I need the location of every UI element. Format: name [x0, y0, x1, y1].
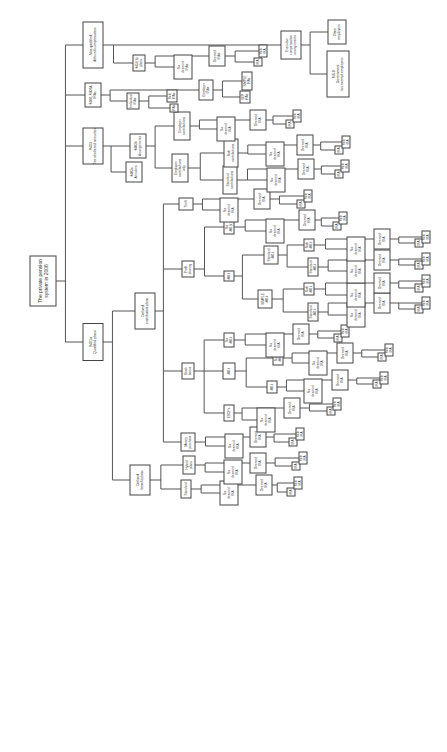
node-label-line: IRA: [277, 150, 281, 156]
node-other: Otheremployers: [328, 20, 346, 44]
node-db-hyb-r: RothIRA: [299, 452, 307, 464]
node-sb-esop-nd: NodeemedIRA: [257, 408, 275, 432]
node-label-line: IRA: [345, 328, 349, 333]
node-label-line: IRA: [268, 416, 272, 422]
node-label-line: IRA: [389, 347, 393, 352]
node-label-line: Standard: [184, 482, 188, 495]
node-label: RothIRA: [333, 401, 340, 408]
node-label: IRA: [336, 335, 340, 340]
node-label-line: IRA: [426, 234, 430, 239]
node-label-line: 401k: [313, 263, 317, 270]
node-ps-t2-nd: NodeemedIRA: [347, 237, 365, 261]
node-label-line: IRA: [417, 262, 421, 267]
node-label-line: IRA: [277, 227, 281, 233]
node-label-line: IRA: [231, 489, 235, 495]
diagram-nodes: The private pensionsystem in 2006§401aQu…: [30, 20, 430, 505]
node-label: IRA: [299, 201, 303, 206]
node-label-line: IRA: [303, 455, 307, 460]
node-ps-no-nd: NodeemedIRA: [266, 219, 284, 243]
node-label-line: contribution plans: [145, 297, 149, 324]
node-label-line: IRA: [235, 468, 239, 474]
node-std-c-d: DeemedIRA: [298, 159, 314, 179]
node-label-line: IRA: [278, 176, 282, 182]
node-ps-s1: Standard401k: [308, 303, 318, 321]
node-label-line: IRA: [264, 481, 268, 487]
node-label-line: plans: [139, 59, 143, 67]
node-std-c: Standardcontributions: [223, 166, 237, 194]
node-sb-no: No401k: [224, 333, 234, 347]
node-db-std-d: DeemedIRA: [256, 475, 272, 495]
node-label-line: IRA: [294, 463, 298, 468]
node-label: IRA: [417, 285, 421, 290]
node-a403a: §403aAnnuities: [126, 162, 142, 182]
node-label: 401k: [227, 272, 231, 279]
node-label: RothIRA: [259, 48, 266, 55]
node-label: Moneypurchase: [184, 435, 192, 448]
node-label: RothIRA: [299, 455, 306, 462]
node-sb-401k-a: 401k: [267, 381, 277, 393]
node-eeonly: Employeecontributionsonly: [172, 154, 188, 182]
node-sb-401k: 401k: [223, 363, 235, 379]
node-dbp: Definedbenefit plans: [130, 465, 150, 495]
node-label-line: IRAs: [185, 63, 189, 70]
node-label-line: 401k: [271, 251, 275, 258]
node-label-line: IRA: [345, 349, 349, 355]
node-db-hyb: Hybridplans: [183, 456, 195, 474]
node-ps-no-r: RothIRA: [339, 212, 347, 224]
node-label-line: contributions: [230, 171, 234, 189]
node-label-line: IRA: [384, 375, 388, 380]
node-label: Profit-sharing: [184, 264, 192, 275]
node-label-line: IRAs: [133, 97, 137, 104]
node-label: RothIRA: [342, 139, 349, 146]
node-label-line: IRAs: [245, 93, 249, 100]
node-label-line: IRA: [256, 59, 260, 64]
node-nqdc: Non-qualifieddeferred compensation: [83, 22, 103, 68]
node-label-line: plans: [189, 461, 193, 469]
diagram-canvas: The private pensionsystem in 2006§401aQu…: [0, 0, 447, 752]
node-db-std: Standard: [181, 480, 191, 498]
node-label: Stockbonus: [184, 366, 192, 375]
node-label-line: IRA: [315, 387, 319, 393]
node-label-line: IRA: [382, 256, 386, 262]
node-std-c-nd: NodeemedIRA: [267, 168, 285, 192]
node-sb-esop: ESOPs: [224, 405, 234, 421]
node-label-line: IRA: [380, 354, 384, 359]
node-s457b-nd: NodeemedIRAs: [174, 55, 192, 79]
node-label: RothIRA: [422, 234, 429, 241]
node-label-line: IRA: [320, 359, 324, 365]
node-label: IRA: [288, 121, 292, 126]
node-label-line: 401k: [270, 383, 274, 390]
node-label-line: Thrift: [184, 200, 188, 207]
node-label-line: 401k: [227, 367, 231, 374]
node-label-line: IRA: [382, 299, 386, 305]
node-label-line: IRAs: [172, 104, 176, 111]
node-roth-c-d: DeemedIRA: [297, 135, 313, 155]
node-er-c-nd: NodeemedIRA: [217, 117, 235, 141]
node-label-line: IRA: [277, 341, 281, 347]
node-ps-t2-d: DeemedIRA: [374, 229, 390, 249]
node-sb-no-d: DeemedIRA: [293, 324, 309, 344]
node-s403: §403Tax sheltered annuities: [83, 127, 103, 164]
node-label-line: IRA: [289, 489, 293, 494]
node-roth-c: Rothcontributions: [224, 139, 238, 167]
node-ps-t1-d: DeemedIRA: [374, 250, 390, 270]
node-label-line: benefit plans: [140, 470, 144, 490]
node-label-line: IRA: [358, 245, 362, 251]
node-label-line: IRA: [258, 116, 262, 122]
node-label-line: IRA: [335, 223, 339, 228]
node-db-hyb-d: DeemedIRA: [250, 453, 266, 473]
node-ps-t2: Roth401k: [304, 239, 314, 251]
node-label-line: IRA: [298, 480, 302, 485]
node-label: RothIRA: [304, 193, 311, 200]
node-ps-s2-r: RothIRA: [422, 275, 430, 287]
node-label-line: IRA: [236, 442, 240, 448]
node-label-line: 401k: [265, 295, 269, 302]
node-label: RothIRA: [293, 113, 300, 120]
node-label: 401k: [227, 367, 231, 374]
node-label-line: IRA: [417, 240, 421, 245]
node-s457b-i: IRA: [254, 58, 262, 66]
node-th-r: RothIRA: [304, 190, 312, 202]
node-label-line: Arrangements: [138, 136, 142, 156]
node-label-line: IRA: [358, 267, 362, 273]
node-label: RothIRA: [341, 328, 348, 335]
